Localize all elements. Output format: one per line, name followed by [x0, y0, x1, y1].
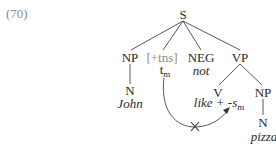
node-vp: VP: [232, 51, 249, 64]
branch-s-np: [131, 21, 183, 50]
branch-s-tns: [163, 21, 183, 50]
branch-vp-np: [240, 64, 262, 85]
word-not: not: [193, 64, 210, 77]
word-pizza: pizza: [251, 130, 276, 143]
tree-branches: [0, 0, 276, 149]
node-subject-np: NP: [122, 51, 139, 64]
trace-t-m: tm: [160, 63, 171, 79]
node-object-n: N: [258, 116, 267, 129]
branch-vp-v: [219, 64, 240, 85]
node-object-np: NP: [255, 86, 272, 99]
word-john: John: [117, 97, 142, 110]
word-like-s-m: like + -sm: [194, 96, 244, 112]
node-s: S: [179, 8, 186, 21]
